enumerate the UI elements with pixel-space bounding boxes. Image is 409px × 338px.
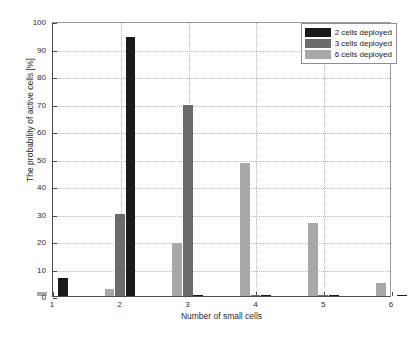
bar bbox=[376, 283, 386, 296]
x-tick-label: 4 bbox=[253, 300, 257, 309]
bar bbox=[308, 223, 318, 296]
bar bbox=[261, 295, 271, 296]
legend: 2 cells deployed3 cells deployed6 cells … bbox=[301, 23, 397, 64]
bar bbox=[58, 278, 68, 296]
y-tick-mark bbox=[53, 298, 57, 299]
bar bbox=[251, 295, 261, 296]
bar bbox=[105, 289, 115, 296]
legend-label: 2 cells deployed bbox=[335, 28, 392, 37]
y-tick-label: 50 bbox=[0, 155, 46, 164]
y-tick-label: 0 bbox=[0, 293, 46, 302]
legend-swatch bbox=[305, 28, 331, 37]
figure-canvas: 0102030405060708090100 123456 Number of … bbox=[0, 0, 409, 338]
y-tick-label: 90 bbox=[0, 45, 46, 54]
bar bbox=[193, 295, 203, 296]
y-tick-label: 100 bbox=[0, 18, 46, 27]
legend-item: 3 cells deployed bbox=[305, 38, 392, 49]
x-tick-label: 5 bbox=[321, 300, 325, 309]
bar bbox=[126, 37, 136, 296]
legend-label: 3 cells deployed bbox=[335, 39, 392, 48]
x-tick-label: 3 bbox=[185, 300, 189, 309]
x-tick-label: 2 bbox=[118, 300, 122, 309]
x-tick-label: 1 bbox=[50, 300, 54, 309]
y-tick-label: 20 bbox=[0, 238, 46, 247]
legend-label: 6 cells deployed bbox=[335, 50, 392, 59]
bar bbox=[240, 163, 250, 296]
y-tick-label: 70 bbox=[0, 100, 46, 109]
bar bbox=[329, 295, 339, 296]
y-tick-label: 10 bbox=[0, 265, 46, 274]
x-axis-title: Number of small cells bbox=[52, 311, 391, 321]
x-tick-mark bbox=[392, 292, 393, 296]
bar bbox=[183, 105, 193, 296]
y-axis-title: The probability of active cells [%] bbox=[25, 30, 35, 210]
bar bbox=[397, 295, 407, 296]
y-tick-label: 40 bbox=[0, 183, 46, 192]
y-tick-label: 60 bbox=[0, 128, 46, 137]
bar bbox=[115, 214, 125, 297]
bar bbox=[172, 243, 182, 296]
legend-swatch bbox=[305, 39, 331, 48]
y-tick-label: 30 bbox=[0, 210, 46, 219]
x-tick-label: 6 bbox=[389, 300, 393, 309]
legend-swatch bbox=[305, 50, 331, 59]
bar bbox=[318, 295, 328, 296]
legend-item: 2 cells deployed bbox=[305, 27, 392, 38]
y-tick-label: 80 bbox=[0, 73, 46, 82]
legend-item: 6 cells deployed bbox=[305, 49, 392, 60]
